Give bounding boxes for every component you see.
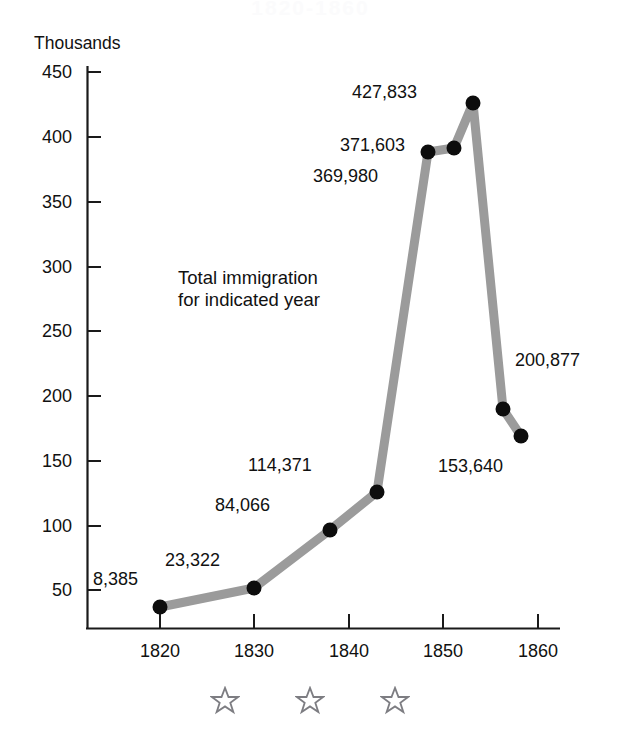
axis-lines bbox=[86, 66, 560, 629]
data-point-1852 bbox=[447, 141, 462, 156]
star-outline-icon bbox=[210, 686, 240, 715]
chart-annotation-line1: Total immigration bbox=[178, 267, 320, 289]
data-point-1840 bbox=[323, 523, 338, 538]
data-point-1845 bbox=[370, 485, 385, 500]
data-label-369980: 369,980 bbox=[313, 166, 378, 187]
data-point-1858 bbox=[496, 402, 511, 417]
data-label-8385: 8,385 bbox=[93, 569, 138, 590]
data-point-1850 bbox=[421, 145, 436, 160]
y-axis-ticks bbox=[88, 72, 102, 590]
data-label-153640: 153,640 bbox=[438, 456, 503, 477]
data-point-1855 bbox=[466, 96, 481, 111]
chart-annotation: Total immigration for indicated year bbox=[178, 267, 320, 311]
plot-area bbox=[0, 0, 621, 749]
data-point-1860 bbox=[514, 429, 529, 444]
data-label-200877: 200,877 bbox=[515, 350, 580, 371]
data-label-114371: 114,371 bbox=[248, 455, 312, 476]
immigration-line-chart: 1820-1860 Thousands 450 400 350 300 250 … bbox=[0, 0, 621, 749]
data-label-427833: 427,833 bbox=[352, 82, 417, 103]
data-point-1820 bbox=[153, 600, 168, 615]
star-outline-icon bbox=[380, 686, 410, 715]
x-axis-ticks bbox=[160, 614, 538, 629]
star-outline-icon bbox=[295, 686, 325, 715]
data-point-1830 bbox=[247, 581, 262, 596]
data-label-84066: 84,066 bbox=[215, 495, 270, 516]
data-label-371603: 371,603 bbox=[340, 135, 405, 156]
data-label-23322: 23,322 bbox=[165, 550, 220, 571]
chart-annotation-line2: for indicated year bbox=[178, 289, 320, 311]
